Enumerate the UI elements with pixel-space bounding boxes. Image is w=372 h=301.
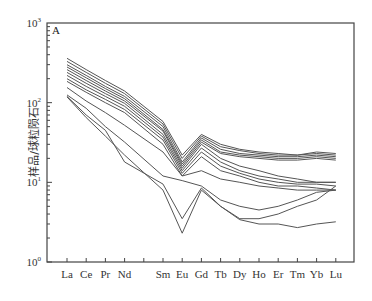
y-axis-label: 样品/球粒陨石 [27,107,41,177]
panel-label: A [52,24,60,36]
x-tick-label-er: Er [273,268,284,280]
y-tick-label: 103 [27,16,42,29]
y-axis-ticks [47,27,52,262]
x-tick-label-la: La [61,268,73,280]
series-line-s7 [67,75,336,182]
x-tick-label-tm: Tm [290,268,306,280]
y-tick-label: 102 [27,96,42,109]
x-tick-label-gd: Gd [195,268,209,280]
data-series [67,58,336,233]
x-tick-label-lu: Lu [330,268,343,280]
x-tick-label-pr: Pr [101,268,111,280]
ree-chondrite-normalized-chart: 100101102103 LaCePrNdSmEuGdTbDyHoErTmYbL… [0,0,372,301]
x-tick-label-tb: Tb [214,268,227,280]
x-tick-label-dy: Dy [233,268,247,280]
series-line-s13 [67,97,336,233]
x-axis-tick-labels: LaCePrNdSmEuGdTbDyHoErTmYbLu [61,268,342,280]
y-tick-label: 100 [27,255,42,268]
x-tick-label-yb: Yb [310,268,324,280]
x-tick-label-nd: Nd [118,268,132,280]
x-axis-ticks [67,258,336,262]
x-tick-label-sm: Sm [156,268,171,280]
x-tick-label-eu: Eu [176,268,189,280]
x-tick-label-ho: Ho [252,268,266,280]
x-tick-label-ce: Ce [80,268,92,280]
series-line-s6 [67,72,336,182]
